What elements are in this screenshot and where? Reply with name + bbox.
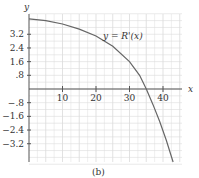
chart: 102030403.22.41.6.8−.8−1.6−2.4−3.2 y x y… — [0, 0, 199, 178]
curve-r-prime — [29, 19, 173, 162]
x-tick-label: 20 — [90, 93, 102, 103]
x-tick-label: 10 — [57, 93, 69, 103]
curve-label: y = R'(x) — [102, 31, 143, 41]
y-tick-label: 2.4 — [10, 43, 25, 53]
x-tick-label: 30 — [124, 93, 136, 103]
y-tick-label: −.8 — [8, 98, 24, 108]
y-tick-label: 1.6 — [10, 57, 25, 67]
y-tick-label: −2.4 — [2, 125, 24, 135]
caption: (b) — [92, 167, 105, 177]
y-tick-label: −1.6 — [2, 111, 24, 121]
y-tick-label: −3.2 — [2, 139, 24, 149]
x-axis-label: x — [188, 84, 193, 94]
y-axis-label: y — [23, 2, 30, 12]
y-tick-label: .8 — [15, 70, 24, 80]
y-tick-label: 3.2 — [10, 29, 24, 39]
x-tick-label: 40 — [157, 93, 169, 103]
